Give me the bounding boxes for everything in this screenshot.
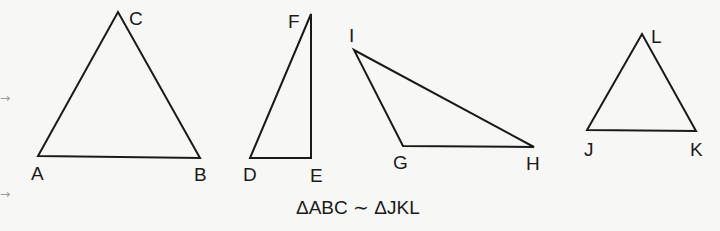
vertex-label-e: E [310, 165, 323, 186]
margin-arrow-icon: → [0, 187, 10, 201]
triangle-def: DEF [243, 11, 323, 186]
vertex-label-j: J [584, 139, 594, 160]
vertex-label-f: F [288, 11, 300, 32]
vertex-label-d: D [243, 164, 257, 185]
vertex-label-a: A [31, 163, 44, 184]
vertex-label-h: H [526, 153, 540, 174]
triangle-ghi: GHI [349, 25, 540, 174]
triangle-shape [250, 14, 311, 158]
vertex-label-c: C [129, 8, 143, 29]
vertex-label-k: K [690, 139, 703, 160]
similarity-caption: ΔABC ∼ ΔJKL [296, 197, 420, 218]
similar-triangles-diagram: ABCDEFGHIJKL → → ΔABC ∼ ΔJKL [0, 0, 720, 231]
triangle-shape [587, 34, 696, 131]
triangle-jkl: JKL [584, 26, 703, 160]
margin-arrow-icon: → [0, 91, 10, 105]
vertex-label-l: L [651, 26, 662, 47]
vertex-label-i: I [349, 25, 354, 46]
triangle-shape [38, 12, 200, 158]
triangle-shape [354, 50, 534, 147]
triangle-abc: ABC [31, 8, 207, 185]
vertex-label-g: G [393, 152, 408, 173]
vertex-label-b: B [194, 164, 207, 185]
